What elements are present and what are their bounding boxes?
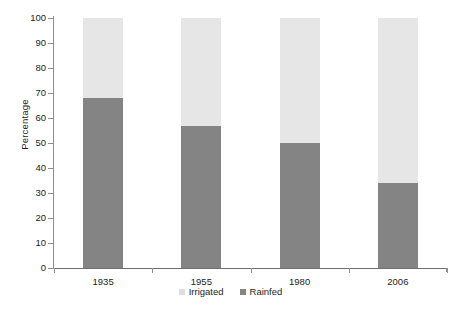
y-axis-tick-label: 70 [2,88,46,98]
y-axis-tick [48,143,54,144]
chart-legend: Irrigated Rainfed [0,286,461,297]
bar-group[interactable] [181,18,221,268]
bar-segment-rainfed[interactable] [378,183,418,268]
y-axis-tick [48,218,54,219]
y-axis-tick-label: 50 [2,138,46,148]
y-axis-tick [48,93,54,94]
y-axis-tick [48,18,54,19]
y-axis-tick [48,118,54,119]
y-axis-tick-label: 40 [2,163,46,173]
bar-segment-rainfed[interactable] [181,126,221,269]
bar-segment-irrigated[interactable] [181,18,221,126]
y-axis-tick [48,43,54,44]
bar-segment-irrigated[interactable] [280,18,320,143]
bar-group[interactable] [280,18,320,268]
legend-label-rainfed: Rainfed [250,286,283,297]
y-axis-tick-label: 30 [2,188,46,198]
y-axis-tick [48,168,54,169]
legend-swatch-rainfed-icon [240,289,246,295]
legend-label-irrigated: Irrigated [189,286,224,297]
x-axis-tick [447,268,448,273]
x-axis-tick [54,268,55,273]
y-axis-tick [48,243,54,244]
y-axis-tick-label: 60 [2,113,46,123]
bar-segment-rainfed[interactable] [280,143,320,268]
bar-segment-irrigated[interactable] [83,18,123,98]
y-axis-tick-label: 10 [2,238,46,248]
y-axis-tick-label: 90 [2,38,46,48]
bar-segment-rainfed[interactable] [83,98,123,268]
bar-segment-irrigated[interactable] [378,18,418,183]
y-axis-tick [48,68,54,69]
legend-swatch-irrigated-icon [179,289,185,295]
x-axis-tick [349,268,350,273]
legend-item-rainfed[interactable]: Rainfed [240,286,283,297]
x-axis-line [53,268,447,269]
y-axis-tick-label: 100 [2,13,46,23]
bar-group[interactable] [83,18,123,268]
x-axis-tick [251,268,252,273]
stacked-bar-chart: Percentage 0102030405060708090100 193519… [0,0,461,311]
y-axis-tick-label: 0 [2,263,46,273]
legend-item-irrigated[interactable]: Irrigated [179,286,224,297]
y-axis-tick-label: 80 [2,63,46,73]
y-axis-tick [48,193,54,194]
y-axis-tick-label: 20 [2,213,46,223]
bar-group[interactable] [378,18,418,268]
x-axis-tick [152,268,153,273]
